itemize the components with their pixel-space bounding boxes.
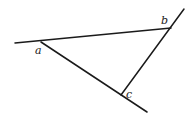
line-ac xyxy=(41,42,147,112)
point-label-a: a xyxy=(35,44,42,57)
triangle-diagram: a b c xyxy=(0,0,193,117)
point-label-b: b xyxy=(161,14,168,27)
point-label-c: c xyxy=(126,88,132,101)
line-ab xyxy=(15,28,171,43)
line-bc xyxy=(121,9,184,95)
